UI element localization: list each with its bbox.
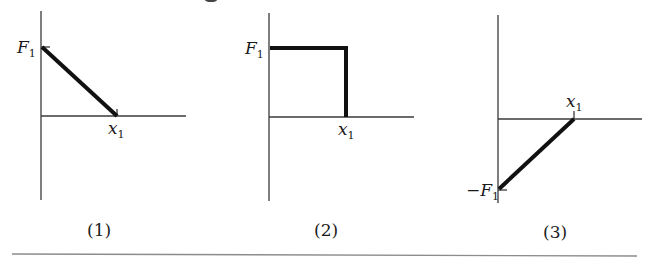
bottom-divider: [12, 254, 637, 256]
panel-3: x1 −F1 (3): [466, 15, 642, 242]
panel-2-x-label: x1: [338, 119, 355, 142]
force-displacement-diagram: F1 x1 (1) F1 x1 (2) x1 −F1 (3): [0, 0, 659, 266]
panel-3-force-curve: [499, 119, 574, 189]
cropped-text-fragment: [205, 0, 217, 2]
panel-2-force-curve: [270, 48, 346, 117]
panel-1-force-curve: [42, 47, 117, 116]
panel-1-y-label: F1: [16, 37, 36, 60]
panel-3-y-label: −F1: [466, 180, 499, 203]
panel-1-x-label: x1: [108, 118, 125, 141]
panel-3-caption: (3): [543, 222, 567, 242]
panel-3-x-label: x1: [566, 91, 583, 114]
panel-2-caption: (2): [314, 220, 338, 240]
panel-1: F1 x1 (1): [16, 11, 186, 240]
panel-2: F1 x1 (2): [244, 13, 414, 240]
panel-2-y-label: F1: [244, 38, 264, 61]
panel-1-caption: (1): [87, 220, 111, 240]
